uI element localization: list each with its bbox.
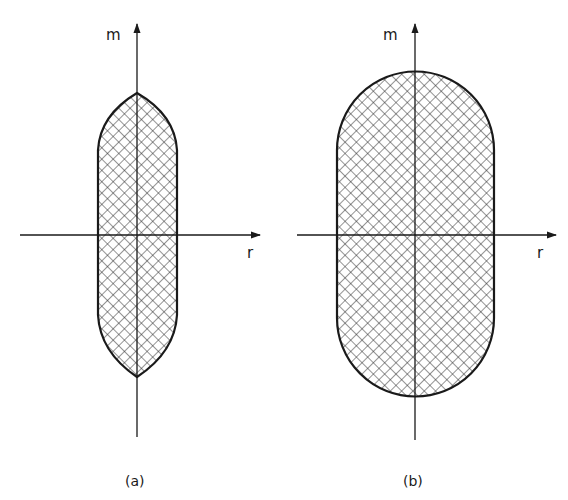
r-label-a: r	[247, 244, 254, 262]
r-label-b: r	[537, 244, 544, 262]
m-label-a: m	[106, 26, 121, 44]
m-label-b: m	[383, 26, 398, 44]
figure: m r (a) m r (b)	[0, 0, 568, 500]
caption-a: (a)	[125, 473, 145, 489]
caption-b: (b)	[403, 473, 423, 489]
panel-b: m r (b)	[297, 24, 556, 489]
panel-a: m r (a)	[20, 24, 260, 489]
